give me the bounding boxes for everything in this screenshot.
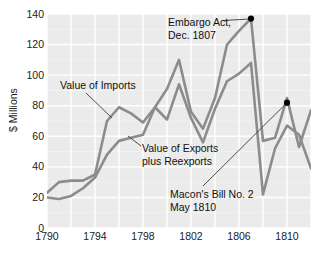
annotation-value-of-imports-line1: Value of Imports bbox=[60, 79, 136, 92]
x-tick-1798: 1798 bbox=[123, 231, 163, 242]
annotation-value-of-exports: Value of Exports plus Reexports bbox=[142, 142, 218, 167]
chart-container: $ Millions 020406080100120140 Embargo Ac… bbox=[0, 0, 326, 257]
x-tick-1806: 1806 bbox=[219, 231, 259, 242]
annotation-embargo-act-line1: Embargo Act, bbox=[168, 16, 231, 29]
annotation-leaders bbox=[0, 0, 326, 257]
annotation-embargo-act: Embargo Act, Dec. 1807 bbox=[168, 16, 231, 41]
x-tick-1790: 1790 bbox=[27, 231, 67, 242]
annotation-value-of-imports: Value of Imports bbox=[60, 79, 136, 92]
annotation-macons-bill: Macon's Bill No. 2 May 1810 bbox=[170, 188, 254, 213]
x-tick-1810: 1810 bbox=[267, 231, 307, 242]
annotation-value-of-exports-line1: Value of Exports bbox=[142, 142, 218, 155]
annotation-macons-bill-line2: May 1810 bbox=[170, 201, 254, 214]
x-tick-1794: 1794 bbox=[75, 231, 115, 242]
x-tick-1802: 1802 bbox=[171, 231, 211, 242]
annotation-macons-bill-line1: Macon's Bill No. 2 bbox=[170, 188, 254, 201]
annotation-value-of-exports-line2: plus Reexports bbox=[142, 155, 218, 168]
annotation-embargo-act-line2: Dec. 1807 bbox=[168, 29, 231, 42]
